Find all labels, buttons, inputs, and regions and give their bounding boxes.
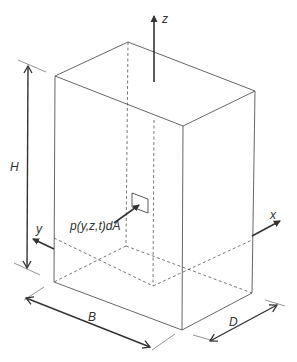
width-label: B	[88, 310, 96, 324]
pressure-element: p(y,z,t)dA	[69, 193, 148, 233]
box-edges	[54, 42, 255, 330]
z-axis-label: z	[161, 12, 168, 26]
box-diagram: z y x p(y,z,t)dA H B D	[0, 0, 297, 362]
z-axis: z	[154, 12, 168, 82]
height-label: H	[10, 160, 19, 174]
x-axis-label: x	[269, 208, 277, 222]
y-axis: y	[33, 222, 54, 249]
depth-dimension: D	[193, 300, 285, 341]
y-axis-label: y	[35, 222, 43, 236]
x-axis: x	[252, 208, 280, 236]
hidden-edges	[54, 42, 252, 293]
pressure-label: p(y,z,t)dA	[69, 219, 120, 233]
depth-label: D	[229, 315, 238, 329]
